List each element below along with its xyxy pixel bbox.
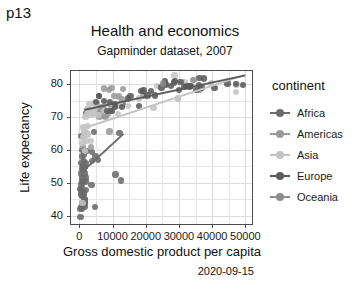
- x-tick-mark: [245, 225, 246, 228]
- y-tick-label: 50: [37, 176, 63, 188]
- legend-item-label: Oceania: [297, 191, 338, 203]
- legend-item-label: Africa: [297, 107, 325, 119]
- data-point: [84, 131, 90, 137]
- data-point: [160, 80, 166, 86]
- chart-title: Health and economics: [70, 22, 260, 39]
- data-point: [106, 128, 112, 134]
- legend-items: AfricaAmericasAsiaEuropeOceania: [270, 102, 364, 207]
- data-point: [79, 140, 85, 146]
- legend: continent AfricaAmericasAsiaEuropeOceani…: [270, 78, 364, 207]
- y-tick-label: 40: [37, 209, 63, 221]
- x-tick-mark: [212, 225, 213, 228]
- y-tick-mark: [67, 84, 70, 85]
- y-tick-label: 80: [37, 77, 63, 89]
- data-point: [112, 171, 118, 177]
- legend-key-icon: [270, 169, 290, 183]
- x-tick-mark: [79, 225, 80, 228]
- legend-item-label: Asia: [297, 149, 318, 161]
- legend-item-label: Europe: [297, 170, 332, 182]
- gridline-vertical: [229, 71, 230, 224]
- chart-caption: 2020-09-15: [120, 265, 254, 277]
- x-tick-mark: [179, 225, 180, 228]
- data-point: [101, 85, 107, 91]
- legend-item-asia[interactable]: Asia: [270, 144, 364, 165]
- legend-item-americas[interactable]: Americas: [270, 123, 364, 144]
- data-point: [92, 204, 98, 210]
- y-axis-title: Life expectancy: [17, 78, 32, 218]
- data-point: [95, 112, 101, 118]
- data-point: [77, 214, 83, 220]
- data-point: [125, 103, 131, 109]
- x-tick-mark: [146, 225, 147, 228]
- gridline-vertical: [212, 71, 213, 224]
- plot-panel: [70, 70, 253, 225]
- x-tick-mark: [113, 225, 114, 228]
- legend-item-europe[interactable]: Europe: [270, 165, 364, 186]
- chart-subtitle: Gapminder dataset, 2007: [70, 44, 260, 58]
- x-tick-label: 50000: [215, 230, 275, 242]
- y-tick-mark: [67, 216, 70, 217]
- page-tag: p13: [6, 4, 31, 21]
- data-point: [233, 89, 239, 95]
- data-point: [83, 187, 89, 193]
- legend-key-icon: [270, 190, 290, 204]
- data-point: [88, 182, 94, 188]
- data-point: [138, 88, 144, 94]
- data-point: [120, 86, 126, 92]
- legend-title: continent: [272, 78, 364, 93]
- data-point: [201, 75, 207, 81]
- legend-item-label: Americas: [297, 128, 343, 140]
- chart-page: p13 Health and economics Gapminder datas…: [0, 0, 364, 290]
- legend-item-africa[interactable]: Africa: [270, 102, 364, 123]
- legend-key-icon: [270, 148, 290, 162]
- legend-item-oceania[interactable]: Oceania: [270, 186, 364, 207]
- gridline-vertical: [196, 71, 197, 224]
- gridline-vertical: [179, 71, 180, 224]
- data-point: [111, 93, 117, 99]
- y-tick-mark: [67, 183, 70, 184]
- data-point: [104, 108, 110, 114]
- legend-key-icon: [270, 127, 290, 141]
- data-point: [77, 206, 83, 212]
- y-tick-label: 60: [37, 143, 63, 155]
- legend-key-icon: [270, 106, 290, 120]
- y-tick-mark: [67, 117, 70, 118]
- data-point: [118, 177, 124, 183]
- data-point: [119, 104, 125, 110]
- y-tick-label: 70: [37, 110, 63, 122]
- x-axis-title: Gross domestic product per capita: [42, 244, 282, 259]
- y-tick-mark: [67, 150, 70, 151]
- gridline-vertical: [245, 71, 246, 224]
